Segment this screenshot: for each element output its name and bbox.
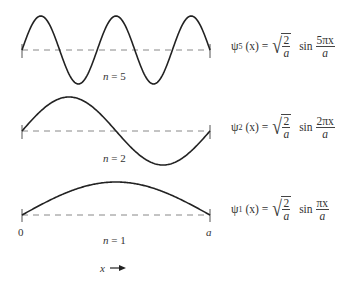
sin-num: πx: [316, 197, 330, 210]
sin-label: sin: [299, 203, 312, 215]
sin-label: sin: [299, 121, 312, 133]
axis-end-label: a: [206, 226, 212, 238]
n-label-5: n = 5: [103, 70, 126, 82]
sqrt-num: 2: [282, 197, 290, 210]
sqrt-num: 2: [282, 115, 290, 128]
n-label-2: n = 2: [103, 152, 126, 164]
psi-symbol: ψ: [231, 39, 239, 54]
psi-symbol: ψ: [231, 120, 239, 135]
sin-den: a: [322, 47, 328, 59]
equation-psi2: ψ2 (x) = √2a sin 2πxa: [231, 114, 336, 140]
sin-num: 5πx: [316, 34, 335, 47]
axis-start-label: 0: [18, 226, 24, 238]
sin-label: sin: [299, 40, 312, 52]
sqrt-den: a: [283, 47, 289, 59]
subscript: 5: [239, 42, 243, 51]
sin-num: 2πx: [316, 115, 335, 128]
equation-psi1: ψ1 (x) = √2a sin πxa: [231, 196, 330, 222]
sqrt-den: a: [283, 210, 289, 222]
sqrt-num: 2: [282, 34, 290, 47]
wave-curve-n1: [22, 182, 210, 215]
sqrt: √2a: [271, 33, 291, 59]
sqrt: √2a: [271, 114, 291, 140]
lhs-arg: (x) =: [246, 121, 269, 133]
subscript: 1: [239, 205, 243, 214]
subscript: 2: [239, 123, 243, 132]
arrow-right-icon: [110, 265, 126, 271]
lhs-arg: (x) =: [246, 40, 269, 52]
equation-psi5: ψ5 (x) = √2a sin 5πxa: [231, 33, 336, 59]
sqrt-den: a: [283, 128, 289, 140]
sin-den: a: [322, 128, 328, 140]
lhs-arg: (x) =: [246, 203, 269, 215]
n-label-1: n = 1: [103, 234, 126, 246]
sqrt: √2a: [271, 196, 291, 222]
sin-den: a: [319, 210, 325, 222]
x-direction-label: x: [99, 262, 105, 274]
plot-n1: [22, 182, 210, 222]
psi-symbol: ψ: [231, 202, 239, 217]
